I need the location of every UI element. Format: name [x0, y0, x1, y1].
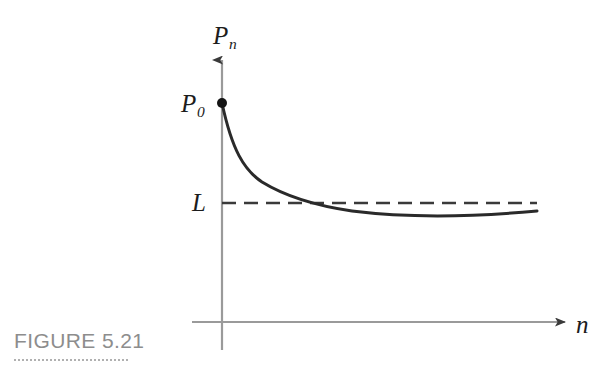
figure-container: Pn P0 L n FIGURE 5.21 — [0, 0, 607, 389]
initial-point-dot — [217, 98, 227, 108]
initial-point-label-subscript: 0 — [197, 103, 205, 120]
vertical-axis-label: Pn — [213, 23, 236, 48]
figure-caption: FIGURE 5.21 — [14, 330, 164, 352]
asymptote-label: L — [192, 190, 206, 215]
initial-point-label-base: P — [181, 90, 196, 117]
decay-curve — [222, 103, 537, 216]
horizontal-axis-label: n — [576, 312, 589, 337]
figure-caption-block: FIGURE 5.21 — [14, 330, 164, 361]
caption-dotted-rule — [14, 359, 128, 361]
initial-point-label: P0 — [181, 91, 204, 116]
vertical-axis-label-subscript: n — [229, 35, 237, 52]
vertical-axis-label-base: P — [213, 22, 228, 49]
